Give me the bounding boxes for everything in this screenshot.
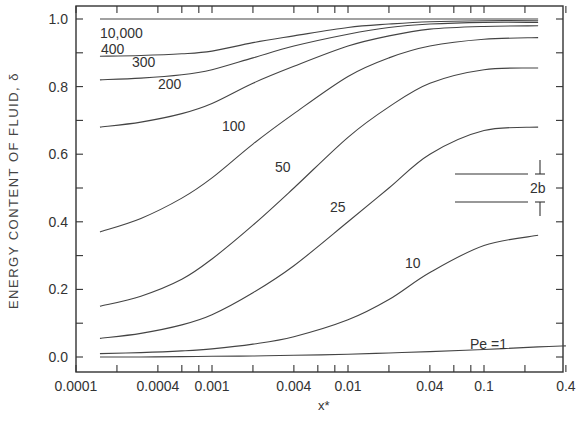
x-tick-label: 0.0004	[136, 378, 179, 394]
y-tick-label: 1.0	[49, 11, 69, 27]
curve-label: 300	[132, 54, 156, 70]
curve-label: 25	[330, 199, 346, 215]
curve-label: 50	[275, 159, 291, 175]
x-tick-label: 0.004	[276, 378, 311, 394]
curve-pe-100	[100, 38, 538, 232]
curve-label: 10,000	[100, 25, 143, 41]
y-tick-label: 0.6	[49, 146, 69, 162]
y-tick-label: 0.4	[49, 214, 69, 230]
y-axis-label-text: ENERGY CONTENT OF FLUID, δ	[7, 71, 22, 308]
curve-label: 400	[101, 41, 125, 57]
x-tick-label: 0.04	[416, 378, 443, 394]
curve-label: 10	[405, 255, 421, 271]
x-axis-label: x*	[318, 398, 330, 413]
curve-pe-50	[100, 68, 538, 306]
x-tick-label: 0.1	[474, 378, 494, 394]
curve-label: 100	[222, 118, 246, 134]
y-tick-label: 0.2	[49, 281, 69, 297]
y-tick-label: 0.0	[49, 349, 69, 365]
y-tick-label: 0.8	[49, 79, 69, 95]
curve-pe-25	[100, 127, 538, 338]
curve-pe-400	[100, 21, 538, 57]
y-axis-label: ENERGY CONTENT OF FLUID, δ	[3, 30, 25, 350]
curve-labels: Pe =110255010020030040010,000	[100, 25, 507, 352]
x-tick-label: 0.001	[194, 378, 229, 394]
curve-label: 200	[158, 76, 182, 92]
curve-label: Pe =1	[470, 336, 507, 352]
x-tick-label: 0.4	[556, 378, 576, 394]
chart-canvas: 0.00010.00040.0010.0040.010.040.10.40.00…	[0, 0, 581, 425]
x-tick-label: 0.01	[334, 378, 361, 394]
data-curves	[100, 19, 566, 357]
schematic-label-2b: 2b	[530, 180, 546, 196]
x-tick-label: 0.0001	[55, 378, 98, 394]
